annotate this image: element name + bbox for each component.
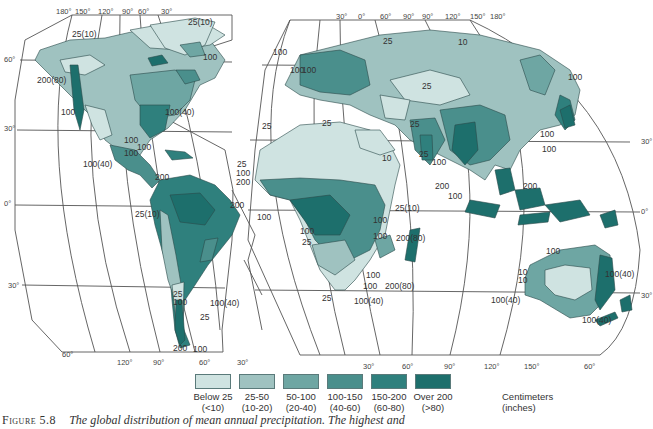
isohyet-label: 25 xyxy=(322,294,331,303)
degree-label: 30° xyxy=(641,138,652,146)
legend-inches: (20-40) xyxy=(276,402,326,413)
isohyet-label: 100(40) xyxy=(491,296,520,305)
degree-label: 60° xyxy=(62,351,73,359)
isohyet-label: 100 xyxy=(173,298,187,307)
legend-item-100-150: 100-150 (40-60) xyxy=(320,374,370,413)
legend-range: 100-150 xyxy=(320,391,370,402)
legend-inches: (>80) xyxy=(408,402,458,413)
degree-label: 60° xyxy=(584,363,595,371)
isohyet-label: 100 xyxy=(540,130,554,139)
legend-item-150-200: 150-200 (60-80) xyxy=(364,374,414,413)
legend-range: 25-50 xyxy=(232,391,282,402)
degree-label: 180° xyxy=(490,13,506,21)
figure-caption: Figure 5.8 The global distribution of me… xyxy=(2,413,405,428)
isohyet-label: 25 xyxy=(410,120,419,129)
degree-label: 30° xyxy=(8,282,19,290)
degree-label: 120° xyxy=(98,8,114,16)
degree-label: 0° xyxy=(641,208,648,216)
legend-range: Over 200 xyxy=(408,391,458,402)
isohyet-label: 100 xyxy=(448,192,462,201)
isohyet-label: 10 xyxy=(458,38,467,47)
isohyet-label: 25 xyxy=(422,82,431,91)
isohyet-label: 25 xyxy=(419,150,428,159)
isohyet-label: 100 xyxy=(363,282,377,291)
degree-label: 30° xyxy=(237,359,248,367)
isohyet-label: 100(40) xyxy=(210,299,239,308)
isohyet-label: 200 xyxy=(236,178,250,187)
legend-item-over-200: Over 200 (>80) xyxy=(408,374,458,413)
legend-swatch xyxy=(415,374,451,389)
isohyet-label: 100 xyxy=(203,53,217,62)
isohyet-label: 100 xyxy=(373,216,387,225)
degree-label: 90° xyxy=(444,363,455,371)
isohyet-label: 200 xyxy=(173,344,187,353)
legend-inches: (60-80) xyxy=(364,402,414,413)
isohyet-label: 25 xyxy=(262,122,271,131)
legend-swatch xyxy=(283,374,319,389)
isohyet-label: 200(80) xyxy=(385,282,414,291)
isohyet-label: 10 xyxy=(382,154,391,163)
isohyet-label: 100 xyxy=(137,143,151,152)
isohyet-label: 100 xyxy=(257,213,271,222)
legend-unit-secondary: (inches) xyxy=(502,402,553,413)
isohyet-label: 100(40) xyxy=(605,270,634,279)
degree-label: 30° xyxy=(336,13,347,21)
degree-label: 0° xyxy=(4,200,11,208)
isohyet-label: 100 xyxy=(568,73,582,82)
legend: Below 25 (<10) 25-50 (10-20) 50-100 (20-… xyxy=(0,374,653,410)
isohyet-label: 100(40) xyxy=(582,316,611,325)
degree-label: 60° xyxy=(402,363,413,371)
isohyet-label: 200 xyxy=(435,182,449,191)
isohyet-label: 100 xyxy=(193,345,207,354)
legend-inches: (40-60) xyxy=(320,402,370,413)
isohyet-label: 100(40) xyxy=(354,297,383,306)
legend-swatch xyxy=(239,374,275,389)
degree-label: 90° xyxy=(153,359,164,367)
legend-item-25-50: 25-50 (10-20) xyxy=(232,374,282,413)
legend-swatch xyxy=(371,374,407,389)
isohyet-label: 200(80) xyxy=(37,76,66,85)
isohyet-label: 100 xyxy=(124,149,138,158)
degree-label: 150° xyxy=(470,13,486,21)
isohyet-label: 100 xyxy=(302,66,316,75)
degree-label: 30° xyxy=(161,8,172,16)
degree-label: 150° xyxy=(524,363,540,371)
degree-label: 120° xyxy=(445,13,461,21)
degree-label: 90° xyxy=(422,13,433,21)
legend-swatch xyxy=(327,374,363,389)
isohyet-label: 200 xyxy=(523,182,537,191)
isohyet-label: 100 xyxy=(61,108,75,117)
isohyet-label: 10 xyxy=(518,276,527,285)
legend-inches: (10-20) xyxy=(232,402,282,413)
degree-label: 30° xyxy=(363,363,374,371)
isohyet-label: 100 xyxy=(273,48,287,57)
legend-units: Centimeters (inches) xyxy=(502,391,553,413)
australia xyxy=(525,245,632,326)
degree-label: 60° xyxy=(138,8,149,16)
degree-label: 120° xyxy=(484,363,500,371)
legend-unit-primary: Centimeters xyxy=(502,391,553,402)
legend-item-50-100: 50-100 (20-40) xyxy=(276,374,326,413)
isohyet-label: 100 xyxy=(366,271,380,280)
isohyet-label: 25(10) xyxy=(188,18,213,27)
degree-label: 30° xyxy=(4,125,15,133)
degree-label: 60° xyxy=(4,56,15,64)
figure-caption-text: The global distribution of mean annual p… xyxy=(69,413,405,427)
south-america xyxy=(150,175,240,348)
legend-range: 50-100 xyxy=(276,391,326,402)
isohyet-label: 100 xyxy=(432,158,446,167)
isohyet-label: 100 xyxy=(373,232,387,241)
isohyet-label: 100 xyxy=(300,227,314,236)
degree-label: 120° xyxy=(117,359,133,367)
isohyet-label: 200(80) xyxy=(396,234,425,243)
isohyet-label: 100(40) xyxy=(165,108,194,117)
isohyet-label: 25(10) xyxy=(395,204,420,213)
legend-range: Below 25 xyxy=(188,391,238,402)
degree-label: 150° xyxy=(75,8,91,16)
degree-label: 0° xyxy=(358,13,365,21)
isohyet-label: 25 xyxy=(302,238,311,247)
degree-label: 60° xyxy=(380,13,391,21)
legend-item-below-25: Below 25 (<10) xyxy=(188,374,238,413)
figure-number: Figure 5.8 xyxy=(2,413,56,427)
degree-label: 90° xyxy=(403,13,414,21)
